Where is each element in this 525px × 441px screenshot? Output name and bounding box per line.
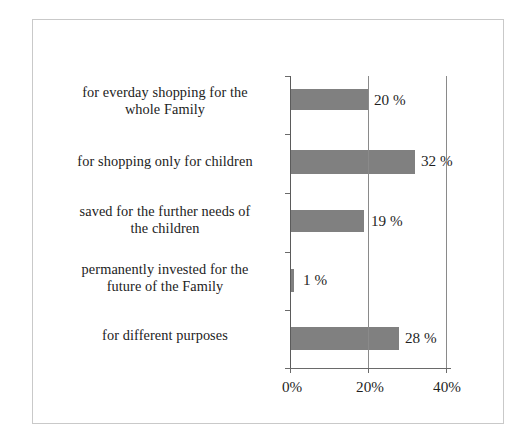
- category-label-1: for shopping only for children: [45, 153, 285, 170]
- category-label-3-line-0: permanently invested for the: [45, 261, 285, 278]
- category-label-3: permanently invested for the future of t…: [45, 261, 285, 295]
- value-label-1: 32 %: [421, 153, 453, 169]
- value-label-4: 28 %: [405, 330, 437, 346]
- x-axis-tick-40: [446, 368, 447, 373]
- category-label-1-line-0: for shopping only for children: [45, 153, 285, 170]
- y-axis-tick-4: [285, 310, 290, 311]
- value-label-2: 19 %: [371, 213, 403, 229]
- value-label-3: 1 %: [303, 272, 327, 288]
- category-label-2: saved for the further needs of the child…: [45, 203, 285, 237]
- x-tick-label-40: 40%: [433, 379, 461, 395]
- bar-0: [290, 89, 368, 110]
- category-label-0-line-1: whole Family: [45, 101, 285, 118]
- category-label-2-line-1: the children: [45, 220, 285, 237]
- category-label-3-line-1: future of the Family: [45, 278, 285, 295]
- category-label-4: for different purposes: [45, 327, 285, 344]
- y-axis-tick-1: [285, 134, 290, 135]
- category-label-0: for everday shopping for the whole Famil…: [45, 84, 285, 118]
- y-axis-tick-3: [285, 252, 290, 253]
- category-label-0-line-0: for everday shopping for the: [45, 84, 285, 101]
- category-label-2-line-0: saved for the further needs of: [45, 203, 285, 220]
- gridline-20: [368, 76, 369, 368]
- bar-chart: for everday shopping for the whole Famil…: [0, 0, 525, 441]
- category-label-4-line-0: for different purposes: [45, 327, 285, 344]
- y-axis-line: [290, 76, 291, 368]
- x-axis-tick-20: [368, 368, 369, 373]
- gridline-40: [446, 76, 447, 368]
- bar-1: [290, 150, 415, 174]
- y-axis-tick-2: [285, 193, 290, 194]
- value-label-0: 20 %: [374, 92, 406, 108]
- bar-4: [290, 327, 399, 350]
- x-tick-label-20: 20%: [356, 379, 384, 395]
- x-tick-label-0: 0%: [282, 379, 302, 395]
- y-axis-tick-0: [285, 76, 290, 77]
- bar-2: [290, 210, 364, 232]
- x-axis-tick-0: [290, 368, 291, 373]
